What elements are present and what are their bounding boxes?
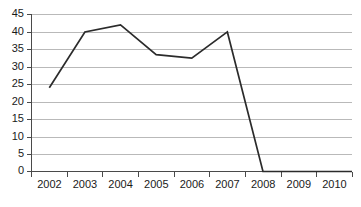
y-tick-label: 35 (12, 42, 24, 54)
x-tick-label: 2009 (287, 178, 311, 190)
y-tick-label: 30 (12, 60, 24, 72)
y-tick-label: 15 (12, 112, 24, 124)
x-tick-label: 2005 (144, 178, 168, 190)
x-tick-label: 2006 (180, 178, 204, 190)
x-tick-marks (32, 172, 353, 177)
gridlines (31, 15, 352, 155)
y-tick-label: 40 (12, 25, 24, 37)
y-tick-label: 20 (12, 95, 24, 107)
x-tick-label: 2008 (251, 178, 275, 190)
y-tick-marks (27, 15, 31, 172)
y-tick-label: 5 (18, 147, 24, 159)
x-tick-label: 2010 (322, 178, 346, 190)
y-axis-labels: 45 40 35 30 25 20 15 10 5 0 (12, 7, 24, 176)
x-tick-label: 2002 (37, 178, 61, 190)
y-tick-label: 0 (18, 164, 24, 176)
line-chart: 45 40 35 30 25 20 15 10 5 0 2002 (0, 0, 361, 207)
x-tick-label: 2003 (73, 178, 97, 190)
x-tick-label: 2004 (108, 178, 132, 190)
y-tick-label: 25 (12, 77, 24, 89)
data-series-line (49, 25, 352, 172)
chart-canvas: 45 40 35 30 25 20 15 10 5 0 2002 (0, 0, 361, 207)
x-tick-label: 2007 (215, 178, 239, 190)
x-axis-labels: 2002 2003 2004 2005 2006 2007 2008 2009 … (37, 178, 346, 190)
y-tick-label: 45 (12, 7, 24, 19)
y-tick-label: 10 (12, 130, 24, 142)
